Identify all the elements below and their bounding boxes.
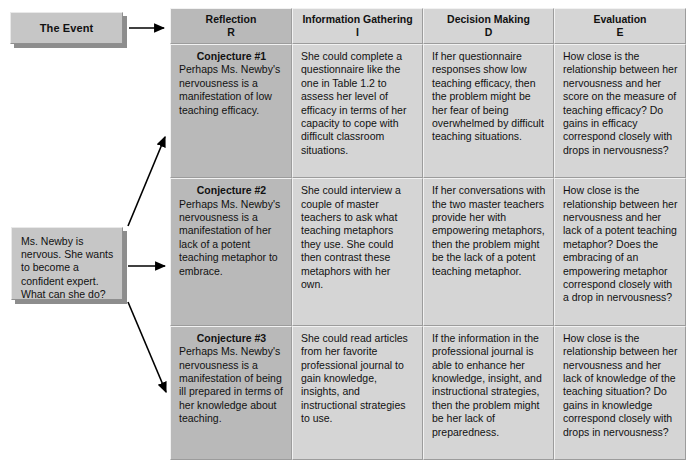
the-event-box: The Event	[10, 12, 123, 44]
cell-text: If the information in the professional j…	[432, 332, 546, 439]
cell-reflection-conjecture-2: Conjecture #2 Perhaps Ms. Newby's nervou…	[170, 178, 292, 326]
cell-evaluation-conjecture-1: How close is the relationship between he…	[554, 44, 686, 178]
matrix-row: Conjecture #3 Perhaps Ms. Newby's nervou…	[170, 326, 686, 460]
cell-text: She could complete a questionnaire like …	[301, 50, 415, 157]
column-header-decision-making-code: D	[485, 26, 493, 39]
cell-text: How close is the relationship between he…	[563, 184, 678, 305]
matrix-row: Conjecture #1 Perhaps Ms. Newby's nervou…	[170, 44, 686, 178]
cell-reflection-conjecture-3: Conjecture #3 Perhaps Ms. Newby's nervou…	[170, 326, 292, 460]
cell-decision-making-conjecture-2: If her conversations with the two master…	[423, 178, 554, 326]
column-header-decision-making: Decision Making D	[423, 8, 554, 44]
column-header-information-gathering: Information Gathering I	[292, 8, 423, 44]
conjecture-title: Conjecture #3	[179, 332, 284, 345]
arrow-scenario-to-conjecture-1	[128, 137, 165, 226]
cell-decision-making-conjecture-1: If her questionnaire responses show low …	[423, 44, 554, 178]
cell-text: If her conversations with the two master…	[432, 184, 546, 278]
column-header-evaluation-title: Evaluation	[593, 13, 646, 26]
conjecture-title: Conjecture #2	[179, 184, 284, 197]
cell-reflection-conjecture-1: Conjecture #1 Perhaps Ms. Newby's nervou…	[170, 44, 292, 178]
matrix-header-row: Reflection R Information Gathering I Dec…	[170, 8, 686, 44]
column-header-reflection: Reflection R	[170, 8, 292, 44]
cell-text: Perhaps Ms. Newby's nervousness is a man…	[179, 345, 284, 425]
reflective-teaching-matrix-diagram: The Event Ms. Newby is nervous. She want…	[0, 0, 689, 467]
cell-text: She could read articles from her favorit…	[301, 332, 415, 426]
scenario-text: Ms. Newby is nervous. She wants to becom…	[21, 235, 116, 301]
the-event-label: The Event	[40, 22, 93, 34]
cell-text: She could interview a couple of master t…	[301, 184, 415, 291]
cell-decision-making-conjecture-3: If the information in the professional j…	[423, 326, 554, 460]
cell-information-gathering-conjecture-1: She could complete a questionnaire like …	[292, 44, 423, 178]
column-header-reflection-title: Reflection	[206, 13, 257, 26]
matrix-table: Reflection R Information Gathering I Dec…	[170, 8, 686, 460]
cell-text: Perhaps Ms. Newby's nervousness is a man…	[179, 198, 284, 278]
cell-text: If her questionnaire responses show low …	[432, 50, 546, 144]
cell-information-gathering-conjecture-2: She could interview a couple of master t…	[292, 178, 423, 326]
column-header-reflection-code: R	[227, 26, 235, 39]
column-header-evaluation-code: E	[616, 26, 623, 39]
conjecture-title: Conjecture #1	[179, 50, 284, 63]
column-header-information-gathering-code: I	[356, 26, 359, 39]
column-header-evaluation: Evaluation E	[554, 8, 686, 44]
scenario-box: Ms. Newby is nervous. She wants to becom…	[11, 227, 123, 300]
cell-text: Perhaps Ms. Newby's nervousness is a man…	[179, 63, 284, 117]
arrow-scenario-to-conjecture-3	[128, 302, 166, 392]
cell-text: How close is the relationship between he…	[563, 332, 678, 439]
cell-information-gathering-conjecture-3: She could read articles from her favorit…	[292, 326, 423, 460]
column-header-information-gathering-title: Information Gathering	[302, 13, 412, 26]
cell-text: How close is the relationship between he…	[563, 50, 678, 157]
cell-evaluation-conjecture-2: How close is the relationship between he…	[554, 178, 686, 326]
cell-evaluation-conjecture-3: How close is the relationship between he…	[554, 326, 686, 460]
matrix-row: Conjecture #2 Perhaps Ms. Newby's nervou…	[170, 178, 686, 326]
column-header-decision-making-title: Decision Making	[447, 13, 530, 26]
